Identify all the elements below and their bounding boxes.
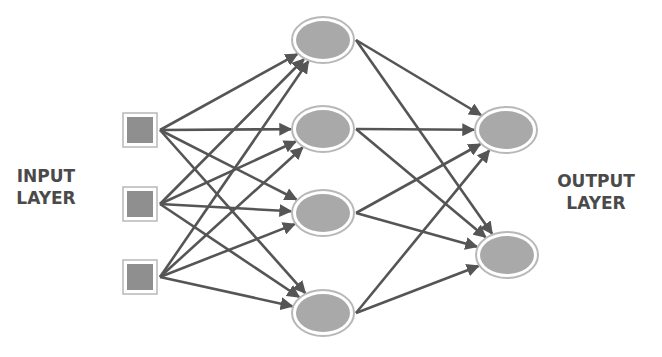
connection-h3-o2 (356, 213, 477, 247)
hidden-node-h2 (292, 106, 354, 152)
connection-i1-h2 (160, 129, 291, 130)
connection-i3-h1 (160, 61, 308, 277)
connection-i3-h3 (160, 224, 295, 277)
connection-i1-h1 (160, 54, 297, 130)
connection-h2-o1 (356, 129, 474, 130)
hidden-node-h3 (292, 190, 354, 236)
input-node-i2 (123, 187, 157, 221)
output-node-o1 (475, 107, 537, 153)
connection-h3-o1 (356, 144, 480, 213)
input-node-i1 (123, 113, 157, 147)
connections (160, 40, 492, 313)
connection-i2-h1 (160, 59, 304, 204)
connection-i3-h4 (160, 277, 292, 306)
connection-h1-o1 (356, 40, 481, 115)
hidden-node-h4 (292, 290, 354, 336)
connection-i1-h3 (160, 130, 297, 200)
hidden-node-h1 (292, 17, 354, 63)
nodes (123, 17, 538, 336)
connection-h2-o2 (356, 129, 486, 237)
output-node-o2 (476, 232, 538, 278)
neural-network-diagram (0, 0, 662, 357)
input-node-i3 (123, 260, 157, 294)
connection-h1-o2 (356, 40, 492, 234)
